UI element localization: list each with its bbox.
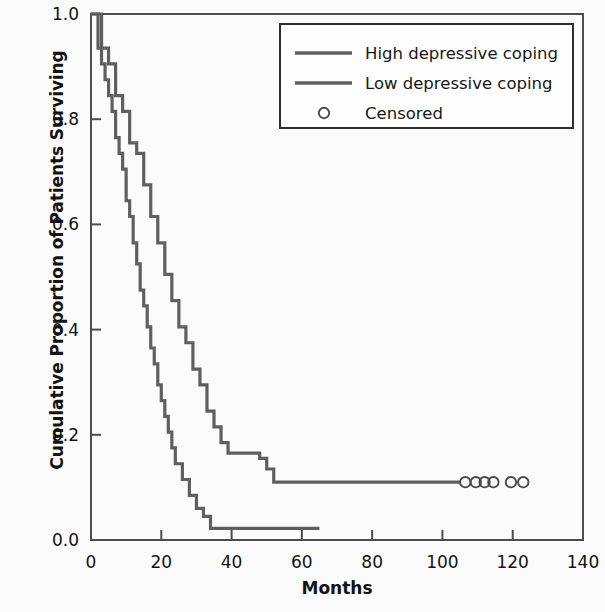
x-axis-label-text: Months	[301, 578, 372, 598]
chart-legend: High depressive copingLow depressive cop…	[280, 24, 573, 128]
x-tick-label: 20	[150, 552, 172, 572]
y-tick-label: 0.8	[52, 109, 79, 129]
x-tick-label: 0	[86, 552, 97, 572]
y-tick-label: 1.0	[52, 4, 79, 24]
x-axis-tick-labels: 020406080100120140	[86, 552, 600, 572]
x-tick-label: 100	[426, 552, 458, 572]
x-tick-label: 80	[361, 552, 383, 572]
x-tick-label: 140	[567, 552, 599, 572]
kaplan-meier-survival-figure: 020406080100120140 0.00.20.40.60.81.0 Hi…	[0, 0, 605, 612]
chart-canvas: 020406080100120140 0.00.20.40.60.81.0 Hi…	[0, 0, 605, 612]
legend-item-label: Low depressive coping	[365, 74, 553, 93]
y-tick-label: 0.4	[52, 320, 79, 340]
legend-item-label: Censored	[365, 104, 443, 123]
x-tick-label: 40	[221, 552, 243, 572]
x-axis-label: Months	[91, 578, 583, 598]
y-tick-label: 0.6	[52, 214, 79, 234]
y-tick-label: 0.2	[52, 425, 79, 445]
x-tick-label: 60	[291, 552, 313, 572]
legend-item-label: High depressive coping	[365, 44, 558, 63]
x-tick-label: 120	[496, 552, 528, 572]
y-axis-tick-labels: 0.00.20.40.60.81.0	[52, 4, 79, 550]
y-tick-label: 0.0	[52, 530, 79, 550]
